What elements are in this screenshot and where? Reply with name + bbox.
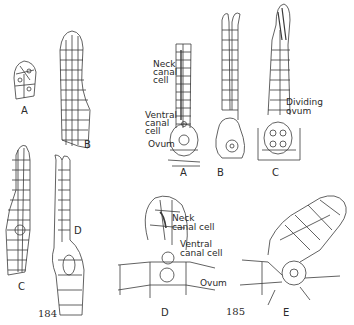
fig184-c-drawing xyxy=(6,145,30,275)
fig185-number: 185 xyxy=(226,306,245,317)
fig184-panel-b-label: B xyxy=(84,140,91,149)
fig185-b-drawing xyxy=(216,13,245,158)
fig185-panel-b-label: B xyxy=(217,168,224,177)
fig184-panel-c-label: C xyxy=(18,282,25,291)
fig184-b-drawing xyxy=(60,31,90,148)
fig184-panel-a-label: A xyxy=(21,106,28,115)
fig185-panel-d-label: D xyxy=(161,308,169,317)
fig185-top-ventral-canal-cell-label: Ventral canal cell xyxy=(145,111,177,135)
fig185-top-neck-canal-cell-label: Neck canal cell xyxy=(153,60,177,84)
botanical-drawings xyxy=(0,0,354,325)
fig185-bottom-neck-canal-cell-label: Neck canal cell xyxy=(172,214,215,232)
fig184-a-drawing xyxy=(14,61,36,99)
fig185-bottom-ventral-canal-cell-label: Ventral canal cell xyxy=(180,240,223,258)
fig185-panel-a-label: A xyxy=(180,168,187,177)
fig184-number: 184 xyxy=(38,308,57,319)
fig185-panel-e-label: E xyxy=(283,308,289,317)
fig185-c-drawing xyxy=(258,4,300,160)
fig185-top-ovum-label: Ovum xyxy=(148,140,175,149)
fig185-e-drawing xyxy=(240,196,346,305)
fig185-panel-c-label: C xyxy=(272,168,279,177)
fig185-dividing-ovum-label: Dividing ovum xyxy=(286,98,323,116)
fig185-bottom-ovum-label: Ovum xyxy=(200,279,227,288)
fig184-panel-d-label: D xyxy=(74,226,82,235)
